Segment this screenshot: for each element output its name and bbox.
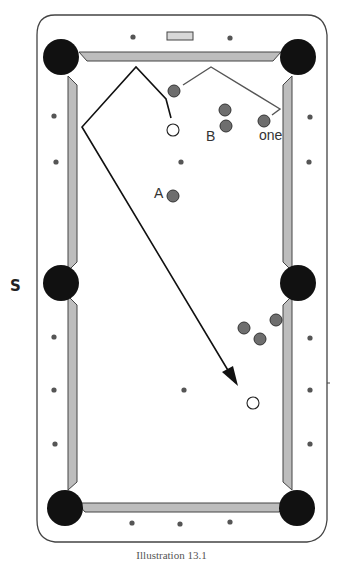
diamond-marker <box>129 520 134 525</box>
diamond-marker <box>306 159 311 164</box>
label-b: B <box>206 128 215 144</box>
cushion-left-lower <box>68 296 77 490</box>
diamond-marker <box>52 441 57 446</box>
diamond-marker <box>307 335 312 340</box>
diamond-marker <box>51 113 56 118</box>
cushion-right-upper <box>283 76 292 271</box>
pocket-bottom-right <box>279 490 315 526</box>
object-ball-b-top <box>219 104 231 116</box>
cue-ball-cue-upper <box>167 124 179 136</box>
head-spot-marker <box>167 32 193 40</box>
diamond-marker <box>307 114 312 119</box>
cushion-left-upper <box>68 76 77 271</box>
diamond-marker <box>178 159 183 164</box>
figure-caption: Illustration 13.1 <box>0 549 343 561</box>
diamond-marker <box>177 521 182 526</box>
object-ball-cluster-3 <box>270 314 282 326</box>
object-ball-one <box>258 115 270 127</box>
diamond-marker <box>51 334 56 339</box>
diamond-marker <box>227 519 232 524</box>
diamond-marker <box>181 387 186 392</box>
pocket-middle-left <box>43 265 79 301</box>
cushion-bottom <box>77 503 287 512</box>
diamond-marker <box>130 34 135 39</box>
object-ball-cluster-1 <box>238 322 250 334</box>
label-one: one <box>259 127 283 143</box>
object-ball-b <box>220 120 232 132</box>
cue-ball-cue-lower <box>247 397 259 409</box>
cushion-right-lower <box>283 296 292 490</box>
object-ball-upper-shot-ball <box>168 85 180 97</box>
pocket-bottom-left <box>47 490 83 526</box>
pocket-top-right <box>280 39 316 75</box>
pocket-top-left <box>43 39 79 75</box>
cushion-top <box>79 52 281 61</box>
diamond-marker <box>227 35 232 40</box>
object-ball-cluster-2 <box>254 333 266 345</box>
side-marker-label: S <box>10 277 21 295</box>
label-a: A <box>154 185 164 201</box>
diamond-marker <box>307 441 312 446</box>
diamond-marker <box>307 387 312 392</box>
diamond-marker <box>53 159 58 164</box>
pocket-middle-right <box>280 265 316 301</box>
object-ball-a <box>167 190 179 202</box>
diamond-marker <box>51 387 56 392</box>
